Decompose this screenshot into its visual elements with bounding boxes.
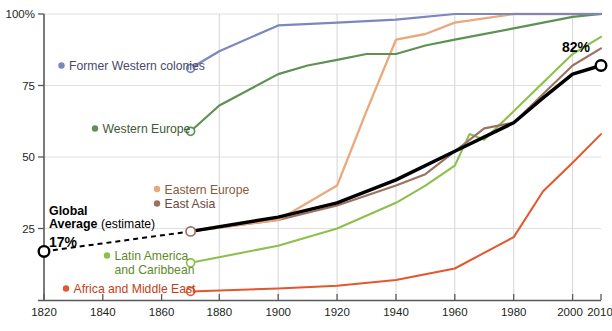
x-tick-2000: 2000: [557, 306, 583, 318]
x-tick-1940: 1940: [383, 306, 409, 318]
global-average-end-annotation: 82%: [562, 39, 591, 55]
marker-eastern-europe-east-asia: [186, 227, 195, 236]
global-average-label-line1: Global: [49, 204, 88, 218]
legend-dot-latin-america: [104, 252, 110, 258]
y-tick-25: 25: [22, 223, 35, 235]
x-tick-1880: 1880: [207, 306, 233, 318]
legend-dot-former-western-colonies: [58, 62, 64, 68]
series-label-africa-middle-east: Africa and Middle East: [74, 282, 197, 296]
y-tick-100: 100%: [6, 8, 35, 20]
chart-container: 100% 75 50 25 1820 1840 1860 1880 1900 1…: [0, 0, 612, 331]
legend-dot-western-europe: [92, 125, 98, 131]
x-tick-1860: 1860: [149, 306, 175, 318]
x-tick-1900: 1900: [265, 306, 291, 318]
line-chart: 100% 75 50 25 1820 1840 1860 1880 1900 1…: [0, 0, 612, 331]
y-tick-50: 50: [22, 151, 35, 163]
x-tick-1820: 1820: [31, 306, 57, 318]
legend-dot-east-asia: [154, 200, 160, 206]
marker-global-average-end: [596, 60, 607, 71]
x-tick-1840: 1840: [90, 306, 116, 318]
global-average-end-value: 82%: [562, 39, 591, 55]
x-tick-2010: 2010: [587, 306, 612, 318]
series-label-former-western-colonies: Former Western colonies: [69, 59, 205, 73]
x-tick-1980: 1980: [501, 306, 527, 318]
x-tick-1920: 1920: [324, 306, 350, 318]
legend-dot-africa-middle-east: [63, 285, 69, 291]
series-label-western-europe: Western Europe: [103, 122, 191, 136]
y-axis-labels: 100% 75 50 25: [6, 8, 35, 235]
legend-dot-eastern-europe: [154, 186, 160, 192]
series-label-latin-america-line2: and Caribbean: [115, 263, 195, 277]
global-average-estimate-note: (estimate): [101, 217, 155, 231]
series-label-latin-america-line1: Latin America: [115, 249, 189, 263]
x-tick-1960: 1960: [442, 306, 468, 318]
series-label-eastern-europe: Eastern Europe: [165, 183, 250, 197]
series-label-east-asia: East Asia: [165, 197, 216, 211]
global-average-start-value: 17%: [49, 234, 78, 250]
series-labels: Former Western colonies Western Europe E…: [58, 59, 249, 296]
y-tick-75: 75: [22, 80, 35, 92]
marker-global-average-start: [39, 246, 50, 257]
x-axis-labels: 1820 1840 1860 1880 1900 1920 1940 1960 …: [31, 306, 612, 318]
global-average-label-line2: Average: [49, 217, 98, 231]
